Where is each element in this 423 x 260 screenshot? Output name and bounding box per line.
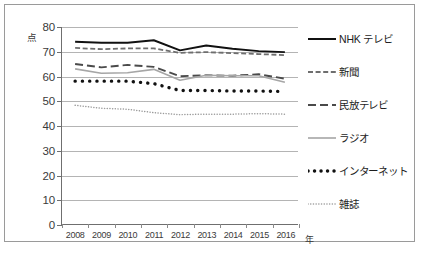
legend-item[interactable]: 民放テレビ — [308, 97, 388, 112]
x-axis-tick-label: 2013 — [197, 230, 216, 240]
x-axis-tick-label: 2016 — [276, 230, 295, 240]
legend-label: 雑誌 — [339, 196, 359, 211]
y-axis-tick-label: 80 — [43, 21, 55, 33]
series-line — [75, 105, 285, 114]
y-axis-tick-label: 0 — [49, 219, 55, 231]
legend-swatch-icon — [308, 33, 336, 45]
legend-swatch-icon — [308, 165, 336, 177]
chart-frame: 点 年 01020304050607080 200820092010201120… — [4, 4, 415, 242]
legend-item[interactable]: NHK テレビ — [308, 31, 393, 46]
legend-item[interactable]: インターネット — [308, 163, 408, 178]
x-axis-tick — [246, 224, 247, 228]
legend-item[interactable]: ラジオ — [308, 130, 368, 145]
x-axis-tick — [115, 224, 116, 228]
legend-label: 新聞 — [339, 64, 359, 79]
plot-area: 01020304050607080 2008200920102011201220… — [61, 27, 298, 225]
series-lines — [62, 27, 298, 224]
legend-label: インターネット — [339, 163, 408, 178]
legend-swatch-icon — [308, 66, 336, 78]
legend-label: 民放テレビ — [339, 97, 388, 112]
x-axis-tick — [88, 224, 89, 228]
x-axis-tick — [167, 224, 168, 228]
series-line — [75, 69, 285, 82]
series-line — [75, 81, 285, 91]
y-axis-tick-label: 30 — [43, 145, 55, 157]
y-axis-tick-label: 10 — [43, 194, 55, 206]
x-axis-tick-label: 2011 — [145, 230, 163, 240]
y-axis-unit-label: 点 — [27, 30, 37, 44]
y-axis-tick-label: 60 — [43, 71, 55, 83]
x-axis-tick — [141, 224, 142, 228]
y-axis-tick-label: 70 — [43, 46, 55, 58]
x-axis-tick-label: 2008 — [66, 230, 85, 240]
figure-container: 点 年 01020304050607080 200820092010201120… — [0, 0, 423, 260]
legend-swatch-icon — [308, 198, 336, 210]
series-line — [75, 40, 285, 52]
x-axis-tick-label: 2009 — [92, 230, 111, 240]
x-axis-unit-label: 年 — [305, 233, 314, 246]
y-axis-tick-label: 40 — [43, 120, 55, 132]
legend-swatch-icon — [308, 132, 336, 144]
x-axis-tick-label: 2014 — [224, 230, 243, 240]
y-axis-tick-label: 20 — [43, 170, 55, 182]
legend-label: ラジオ — [339, 130, 368, 145]
x-axis-tick-label: 2010 — [118, 230, 137, 240]
y-axis-tick-label: 50 — [43, 95, 55, 107]
legend-item[interactable]: 新聞 — [308, 64, 359, 79]
x-axis-tick — [194, 224, 195, 228]
x-axis-tick — [273, 224, 274, 228]
x-axis-tick-label: 2015 — [250, 230, 269, 240]
x-axis-tick — [220, 224, 221, 228]
x-axis-tick — [299, 224, 300, 228]
legend: NHK テレビ新聞民放テレビラジオインターネット雑誌 — [308, 31, 423, 226]
legend-label: NHK テレビ — [339, 31, 393, 46]
legend-swatch-icon — [308, 99, 336, 111]
x-axis-tick-label: 2012 — [171, 230, 190, 240]
x-axis-tick — [62, 224, 63, 228]
legend-item[interactable]: 雑誌 — [308, 196, 359, 211]
figure-caption — [5, 250, 305, 260]
